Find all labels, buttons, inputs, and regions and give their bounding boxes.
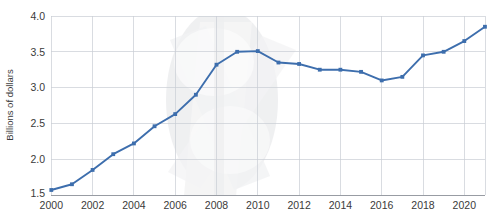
chart-canvas: 1.5 2.0 2.5 3.0 3.5 4.0 Billions of doll… — [0, 0, 494, 221]
data-point-marker — [339, 68, 343, 72]
x-tick-label: 2006 — [164, 199, 188, 211]
x-tick-label: 2012 — [287, 199, 311, 211]
data-point-marker — [194, 93, 198, 97]
data-point-marker — [153, 124, 157, 128]
x-tick-label: 2004 — [122, 199, 146, 211]
x-tick-label: 2020 — [453, 199, 477, 211]
data-point-marker — [359, 70, 363, 74]
y-tick-label: 4.0 — [30, 10, 45, 22]
data-point-marker — [318, 68, 322, 72]
x-tick-label: 2008 — [205, 199, 229, 211]
y-tick-label: 2.0 — [30, 153, 45, 165]
y-tick-label: 1.5 — [30, 187, 45, 199]
data-point-marker — [277, 61, 281, 65]
data-point-marker — [442, 50, 446, 54]
x-tick-label: 2016 — [370, 199, 394, 211]
x-tick-label: 2014 — [329, 199, 353, 211]
line-chart-figure: 1.5 2.0 2.5 3.0 3.5 4.0 Billions of doll… — [0, 0, 494, 221]
data-point-marker — [256, 49, 260, 53]
x-tick-label: 2018 — [411, 199, 435, 211]
data-point-marker — [297, 62, 301, 66]
data-point-marker — [70, 182, 74, 186]
y-tick-label: 3.5 — [30, 46, 45, 58]
data-point-marker — [215, 63, 219, 67]
data-point-marker — [173, 112, 177, 116]
data-point-marker — [462, 39, 466, 43]
data-point-marker — [49, 188, 53, 192]
x-tick-label: 2002 — [81, 199, 105, 211]
x-tick-label: 2010 — [246, 199, 270, 211]
y-tick-label: 3.0 — [30, 81, 45, 93]
data-point-marker — [380, 79, 384, 83]
data-point-marker — [400, 75, 404, 79]
data-point-marker — [235, 50, 239, 54]
data-point-marker — [421, 53, 425, 57]
data-point-marker — [132, 142, 136, 146]
y-tick-label: 2.5 — [30, 117, 45, 129]
data-point-marker — [483, 25, 487, 29]
data-point-marker — [91, 168, 95, 172]
x-tick-label: 2000 — [40, 199, 64, 211]
y-axis-title: Billions of dollars — [4, 69, 15, 141]
data-point-marker — [111, 152, 115, 156]
